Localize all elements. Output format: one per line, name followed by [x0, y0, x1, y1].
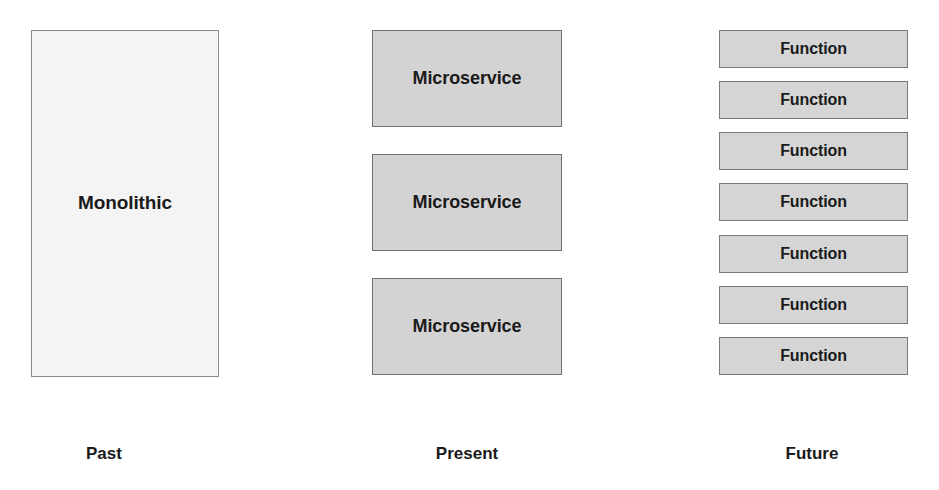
function-box-6: Function — [719, 286, 908, 324]
function-box-3-label: Function — [780, 142, 847, 160]
function-box-7-label: Function — [780, 347, 847, 365]
function-box-1-label: Function — [780, 40, 847, 58]
caption-future: Future — [732, 441, 892, 467]
function-box-5: Function — [719, 235, 908, 273]
function-box-7: Function — [719, 337, 908, 375]
function-box-6-label: Function — [780, 296, 847, 314]
function-box-4-label: Function — [780, 193, 847, 211]
caption-past: Past — [24, 441, 184, 467]
microservice-stack: Microservice Microservice Microservice — [372, 30, 562, 376]
microservice-box-1-label: Microservice — [413, 68, 522, 89]
caption-present: Present — [387, 441, 547, 467]
microservice-box-3-label: Microservice — [413, 316, 522, 337]
function-box-1: Function — [719, 30, 908, 68]
function-box-2: Function — [719, 81, 908, 119]
microservice-box-2: Microservice — [372, 154, 562, 251]
microservice-box-1: Microservice — [372, 30, 562, 127]
monolithic-box: Monolithic — [31, 30, 219, 377]
function-stack: Function Function Function Function Func… — [719, 30, 908, 376]
diagram-canvas: Monolithic Microservice Microservice Mic… — [0, 0, 939, 490]
function-box-5-label: Function — [780, 245, 847, 263]
function-box-3: Function — [719, 132, 908, 170]
function-box-2-label: Function — [780, 91, 847, 109]
function-box-4: Function — [719, 183, 908, 221]
monolithic-box-label: Monolithic — [78, 192, 172, 214]
microservice-box-2-label: Microservice — [413, 192, 522, 213]
microservice-box-3: Microservice — [372, 278, 562, 375]
